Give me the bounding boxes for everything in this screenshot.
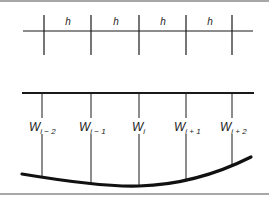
spacing-label: h bbox=[113, 16, 119, 27]
deflection-label: Wi + 1 bbox=[174, 120, 201, 136]
deflection-label: Wi − 1 bbox=[79, 120, 106, 136]
finite-difference-diagram: h h h h Wi − 2 Wi − 1 Wi Wi + 1 Wi + 2 bbox=[0, 0, 269, 198]
deflection-curve bbox=[22, 157, 251, 186]
deflection-stems bbox=[42, 93, 232, 186]
spacing-label: h bbox=[65, 16, 71, 27]
deflection-label: Wi bbox=[132, 120, 145, 136]
spacing-label: h bbox=[160, 16, 166, 27]
deflection-labels: Wi − 2 Wi − 1 Wi Wi + 1 Wi + 2 bbox=[29, 120, 247, 136]
spacing-label: h bbox=[207, 16, 213, 27]
deflection-label: Wi + 2 bbox=[220, 120, 247, 136]
node-grid bbox=[23, 15, 253, 55]
deflection-label: Wi − 2 bbox=[29, 120, 56, 136]
